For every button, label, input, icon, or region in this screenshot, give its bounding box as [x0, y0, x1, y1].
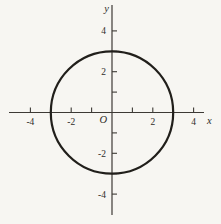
- x-tick-label: 2: [150, 117, 155, 127]
- coordinate-plane-figure: -4-224-4-224 x y O: [0, 0, 221, 224]
- y-tick-label: -2: [98, 149, 106, 159]
- axes: [9, 5, 204, 215]
- x-axis-label: x: [206, 115, 212, 126]
- y-tick-label: -4: [98, 190, 106, 200]
- x-tick-label: 4: [191, 117, 196, 127]
- y-tick-label: 4: [101, 26, 106, 36]
- origin-label: O: [99, 114, 107, 125]
- x-tick-label: -4: [26, 117, 34, 127]
- y-axis-label: y: [103, 3, 109, 14]
- x-tick-label: -2: [67, 117, 75, 127]
- y-tick-label: 2: [101, 67, 106, 77]
